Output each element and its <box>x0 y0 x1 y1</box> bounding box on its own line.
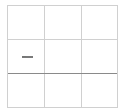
grid-row-divider <box>8 39 117 40</box>
grid-board: ···· <box>7 5 118 108</box>
grid-column-divider <box>81 6 82 107</box>
grid-column-divider <box>44 6 45 107</box>
grid-row-divider-emphasis <box>8 73 117 74</box>
cell-label: ···· <box>22 56 33 58</box>
